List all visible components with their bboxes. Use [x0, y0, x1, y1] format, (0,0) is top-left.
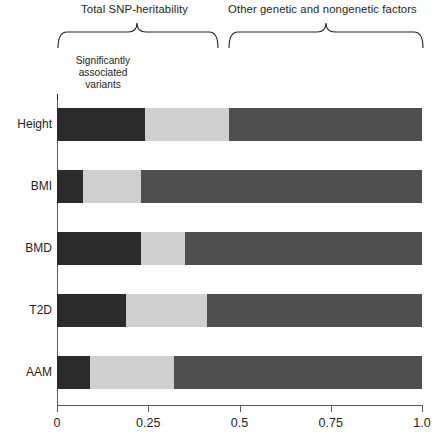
x-axis-tick-label: 0 — [54, 416, 61, 430]
bar-segment-significant-bmd — [57, 232, 141, 265]
bar-row: BMD — [57, 232, 422, 265]
bar-segment-remaining-heritability-aam — [90, 356, 174, 389]
x-axis-tick-label: 1.0 — [413, 416, 430, 430]
plot-area: HeightBMIBMDT2DAAM — [57, 100, 422, 405]
x-axis-tick-label: 0.25 — [136, 416, 160, 430]
bar-row: AAM — [57, 356, 422, 389]
bar-segment-remaining-heritability-bmi — [83, 170, 141, 203]
bar-segment-remaining-heritability-t2d — [126, 294, 206, 327]
callout-line-3: variants — [60, 79, 146, 91]
bar-segment-other-factors-aam — [174, 356, 422, 389]
bar-segment-significant-bmi — [57, 170, 83, 203]
stacked-bar-chart: Total SNP-heritability Other genetic and… — [0, 0, 438, 438]
callout-line-1: Significantly — [60, 55, 146, 67]
bar-segment-other-factors-height — [229, 108, 422, 141]
x-axis: 00.250.50.751.0 — [57, 405, 422, 407]
bar-segment-significant-aam — [57, 356, 90, 389]
bar-segment-significant-t2d — [57, 294, 126, 327]
bar-row: BMI — [57, 170, 422, 203]
x-axis-tick — [422, 405, 423, 412]
x-axis-tick — [57, 405, 58, 412]
bar-segment-significant-height — [57, 108, 145, 141]
callout-significantly-associated-variants: Significantly associated variants — [60, 55, 146, 92]
bar-segment-other-factors-t2d — [207, 294, 422, 327]
category-label-bmd: BMD — [2, 232, 52, 265]
category-label-t2d: T2D — [2, 294, 52, 327]
category-label-aam: AAM — [2, 356, 52, 389]
bar-row: T2D — [57, 294, 422, 327]
brace-group — [0, 0, 438, 60]
bar-segment-other-factors-bmd — [185, 232, 422, 265]
x-axis-tick-label: 0.75 — [319, 416, 343, 430]
x-axis-tick-label: 0.5 — [231, 416, 248, 430]
bar-segment-other-factors-bmi — [141, 170, 422, 203]
brace-total-snp-heritability — [58, 23, 218, 48]
x-axis-tick — [240, 405, 241, 412]
bar-segment-remaining-heritability-bmd — [141, 232, 185, 265]
brace-other-factors — [229, 23, 423, 48]
x-axis-tick — [331, 405, 332, 412]
x-axis-tick — [148, 405, 149, 412]
category-label-bmi: BMI — [2, 170, 52, 203]
category-label-height: Height — [2, 108, 52, 141]
bar-segment-remaining-heritability-height — [145, 108, 229, 141]
callout-line-2: associated — [60, 67, 146, 79]
bar-row: Height — [57, 108, 422, 141]
